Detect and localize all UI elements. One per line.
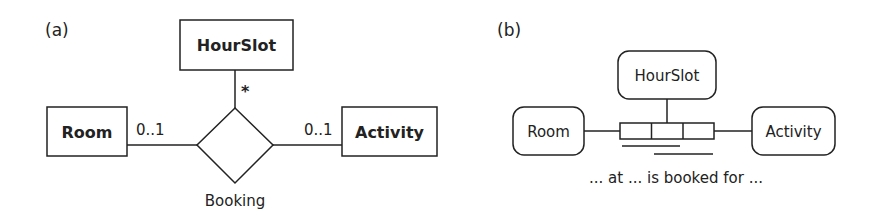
panel-a-er-diagram: (a) HourSlot Room Activity Booking * 0..…: [45, 20, 437, 210]
panel-b-label: (b): [497, 20, 521, 40]
fact-reading: ... at ... is booked for ...: [589, 169, 763, 187]
diagram-canvas: (a) HourSlot Room Activity Booking * 0..…: [0, 0, 872, 217]
multiplicity-room: 0..1: [136, 121, 165, 139]
relationship-diamond: [197, 108, 273, 183]
relationship-label: Booking: [205, 192, 266, 210]
role-box-group: [620, 123, 714, 139]
entity-room-label: Room: [62, 123, 113, 142]
panel-b-orm-diagram: (b) HourSlot Room Activity ... at ... is…: [497, 20, 835, 187]
object-type-hourslot-label: HourSlot: [635, 67, 700, 85]
fact-type-roles: [620, 123, 714, 139]
multiplicity-activity: 0..1: [304, 121, 333, 139]
multiplicity-hourslot: *: [241, 82, 250, 101]
object-type-room-label: Room: [527, 123, 570, 141]
object-type-activity-label: Activity: [765, 123, 821, 141]
entity-activity-label: Activity: [355, 123, 425, 142]
panel-a-label: (a): [45, 20, 69, 40]
entity-hourslot-label: HourSlot: [197, 36, 277, 55]
